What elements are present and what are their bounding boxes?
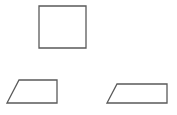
left-trapezoid-shape (7, 80, 57, 103)
diagram-canvas (0, 0, 177, 115)
right-trapezoid-shape (107, 84, 167, 103)
square-shape (39, 6, 86, 48)
